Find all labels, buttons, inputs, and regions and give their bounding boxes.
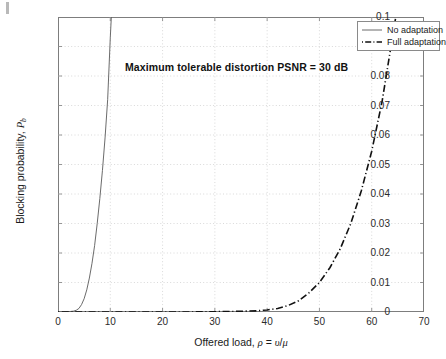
x-tick-label: 20: [148, 316, 178, 327]
x-tick-label: 30: [200, 316, 230, 327]
chart-annotation: Maximum tolerable distortion PSNR = 30 d…: [125, 61, 348, 73]
y-axis-title-prefix: Blocking probability,: [14, 128, 26, 224]
y-tick-label: 0.04: [371, 189, 390, 199]
x-tick-label: 70: [409, 316, 439, 327]
chart-legend: No adaptation Full adaptation: [357, 21, 440, 51]
y-axis-title-subscript: b: [19, 118, 28, 122]
y-tick-label: 0.02: [371, 248, 390, 258]
x-axis-title: Offered load, ρ = υ/μ: [58, 336, 424, 348]
y-tick-label: 0.06: [371, 130, 390, 140]
y-tick-label: 0.01: [371, 278, 390, 288]
x-tick-label: 60: [357, 316, 387, 327]
legend-item-no-adaptation: No adaptation: [361, 24, 436, 35]
legend-label-no-adaptation: No adaptation: [387, 25, 443, 35]
x-axis-title-mu: μ: [282, 337, 287, 348]
y-tick-label: 0.08: [371, 71, 390, 81]
x-tick-label: 0: [43, 316, 73, 327]
x-tick-label: 40: [252, 316, 282, 327]
legend-sample-dashdot-icon: [361, 37, 383, 47]
legend-sample-solid-icon: [361, 25, 383, 35]
x-tick-label: 10: [95, 316, 125, 327]
legend-label-full-adaptation: Full adaptation: [387, 37, 446, 47]
legend-item-full-adaptation: Full adaptation: [361, 36, 436, 47]
y-tick-label: 0.07: [371, 101, 390, 111]
x-tick-label: 50: [304, 316, 334, 327]
y-axis-title-symbol: P: [15, 122, 26, 128]
y-axis-title: Blocking probability, Pb: [14, 71, 28, 271]
x-axis-title-equals: =: [263, 336, 275, 348]
y-tick-label: 0.03: [371, 219, 390, 229]
x-axis-title-prefix: Offered load,: [194, 336, 257, 348]
y-tick-label: 0.05: [371, 160, 390, 170]
